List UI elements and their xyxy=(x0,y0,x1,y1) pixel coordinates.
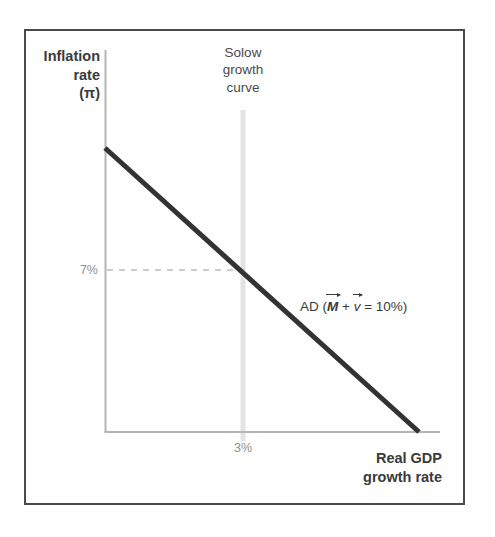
ad-label-m: M xyxy=(327,299,338,314)
ad-label-plus: + xyxy=(338,299,353,314)
velocity-growth-vector-symbol: v xyxy=(354,298,361,315)
ad-label-suffix: = 10%) xyxy=(360,299,407,314)
ad-curve-line xyxy=(105,148,419,432)
x-axis-tick-label-3-percent: 3% xyxy=(224,440,262,456)
vector-arrow-icon xyxy=(353,294,363,295)
solow-growth-curve-label: Solow growth curve xyxy=(193,44,293,96)
ad-label-v: v xyxy=(354,299,361,314)
y-axis-title: Inflation rate (π) xyxy=(22,47,100,103)
x-axis-title: Real GDP growth rate xyxy=(300,449,442,486)
vector-arrow-icon xyxy=(326,294,340,295)
y-axis-tick-label-7-percent: 7% xyxy=(60,262,98,278)
figure-root: Inflation rate (π) Real GDP growth rate … xyxy=(0,0,495,537)
ad-curve-label: AD (M + v = 10%) xyxy=(300,298,407,315)
ad-label-prefix: AD ( xyxy=(300,299,327,314)
money-growth-vector-symbol: M xyxy=(327,298,338,315)
